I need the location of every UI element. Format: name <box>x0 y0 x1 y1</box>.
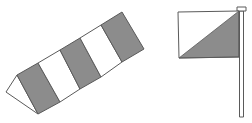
flag-pole-cap <box>237 7 246 11</box>
flag-pole <box>240 11 244 117</box>
wind-indicators-diagram <box>0 0 252 123</box>
windsock-icon <box>6 12 144 114</box>
flag-icon <box>178 7 246 117</box>
